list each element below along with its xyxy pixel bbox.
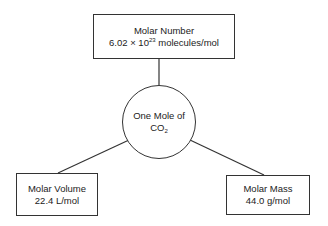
molar-mass-title: Molar Mass (243, 183, 292, 195)
connector-left (58, 140, 129, 173)
molar-volume-box: Molar Volume 22.4 L/mol (16, 173, 98, 216)
molar-mass-box: Molar Mass 44.0 g/mol (226, 175, 310, 215)
molar-mass-value: 44.0 g/mol (246, 195, 290, 207)
molar-number-box: Molar Number 6.02 × 1023 molecules/mol (93, 14, 235, 59)
circle-label-line2: CO2 (150, 122, 168, 134)
circle-label-line1: One Mole of (133, 110, 185, 122)
connector-right (190, 140, 264, 175)
molar-volume-title: Molar Volume (28, 183, 86, 195)
molar-volume-value: 22.4 L/mol (35, 195, 79, 207)
molar-number-value: 6.02 × 1023 molecules/mol (109, 37, 219, 49)
one-mole-circle: One Mole of CO2 (122, 85, 196, 159)
molar-number-title: Molar Number (134, 25, 194, 37)
